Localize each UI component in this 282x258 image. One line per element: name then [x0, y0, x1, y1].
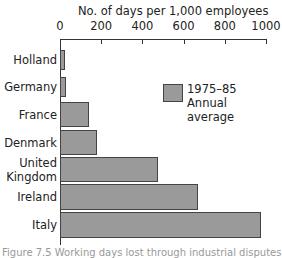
x-axis-line — [60, 39, 266, 40]
category-label: Italy — [32, 218, 57, 232]
x-tick — [266, 39, 267, 44]
x-tick-label: 800 — [214, 19, 236, 33]
bar — [60, 130, 97, 155]
bar — [60, 184, 198, 210]
legend-line-2: Annual average — [187, 96, 277, 124]
x-tick-label: 0 — [56, 19, 63, 33]
bar — [60, 102, 89, 127]
legend-label: 1975–85 Annual average — [187, 82, 277, 124]
bar — [60, 50, 65, 70]
category-label: Denmark — [4, 136, 57, 150]
category-label: UnitedKingdom — [6, 156, 57, 184]
figure-caption: Figure 7.5 Working days lost through ind… — [2, 247, 281, 258]
category-label: Ireland — [17, 190, 57, 204]
x-tick-label: 1000 — [251, 19, 280, 33]
legend-swatch — [163, 84, 183, 102]
category-label: Germany — [4, 80, 57, 94]
x-axis-title: No. of days per 1,000 employees — [78, 4, 268, 18]
legend-line-1: 1975–85 — [187, 82, 277, 96]
x-tick-label: 400 — [131, 19, 153, 33]
category-label: Holland — [13, 53, 57, 67]
x-tick-label: 600 — [173, 19, 195, 33]
category-label: France — [19, 108, 57, 122]
bar — [60, 157, 158, 182]
bar — [60, 77, 66, 97]
x-tick-label: 200 — [90, 19, 112, 33]
bar — [60, 212, 261, 238]
